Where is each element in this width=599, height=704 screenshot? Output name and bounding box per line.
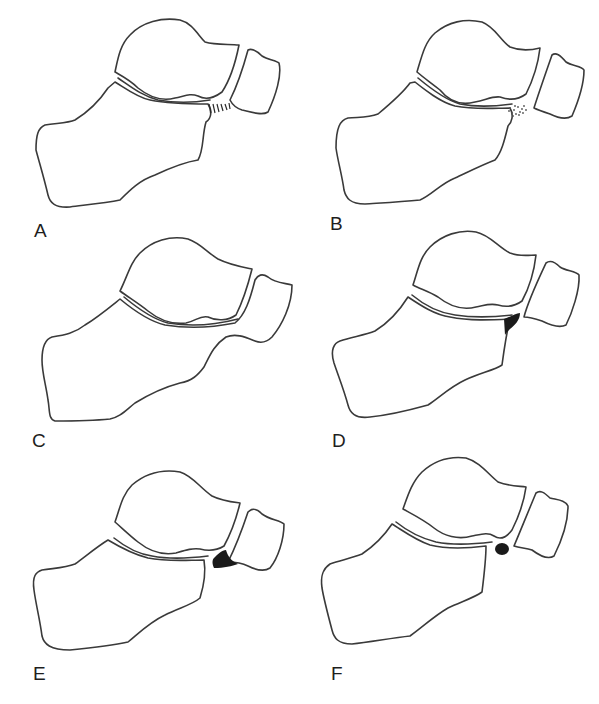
panel-a: A [0, 0, 300, 245]
calcaneus [332, 297, 510, 417]
talus [403, 458, 526, 538]
calcaneus [33, 540, 204, 650]
foot-bones-drawing-d [300, 225, 599, 455]
panel-c: C [0, 225, 300, 455]
navicular [534, 54, 584, 118]
foot-bones-drawing-b [300, 0, 599, 245]
panel-f: F [300, 450, 599, 704]
panel-label-f: F [331, 664, 343, 683]
panel-label-d: D [332, 431, 346, 450]
calcaneus [321, 524, 486, 644]
os-calcaneus-secundarius [495, 543, 509, 555]
panel-label-e: E [33, 664, 46, 683]
navicular [230, 49, 280, 113]
foot-bones-drawing-c [0, 225, 300, 455]
foot-bones-drawing-a [0, 0, 300, 245]
panel-label-c: C [32, 431, 46, 450]
panel-e: E [0, 450, 300, 704]
panel-d: D [300, 225, 599, 455]
talus [115, 19, 239, 99]
talus [115, 471, 240, 554]
talus [120, 238, 252, 324]
calcaneus [36, 82, 211, 207]
foot-bones-drawing-f [300, 450, 599, 704]
fibrous-coalition-hatch [209, 103, 230, 113]
panel-b: B [300, 0, 599, 245]
talus [413, 231, 536, 308]
calcaneus [336, 82, 512, 204]
